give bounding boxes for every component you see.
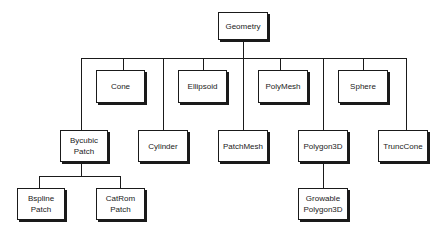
connector-catrom — [120, 176, 121, 188]
connector-bycubic-bar — [39, 176, 121, 177]
node-catrom-patch: CatRom Patch — [96, 188, 145, 220]
connector-bycubic-stem — [81, 162, 82, 176]
connector-root-stem — [243, 40, 244, 131]
connector-ellipsoid — [203, 58, 204, 70]
connector-main-bar — [81, 58, 407, 59]
node-cylinder: Cylinder — [138, 130, 188, 162]
connector-cylinder — [163, 58, 164, 130]
node-geometry: Geometry — [218, 12, 268, 40]
node-cone: Cone — [96, 70, 145, 103]
node-ellipsoid: Ellipsoid — [178, 70, 227, 103]
node-bspline-patch: Bspline Patch — [17, 188, 65, 220]
geometry-class-hierarchy-diagram: Geometry Cone Ellipsoid PolyMesh Sphere … — [0, 0, 440, 239]
connector-sphere — [363, 58, 364, 70]
node-growable-polygon3d: Growable Polygon3D — [298, 188, 348, 220]
connector-polymesh — [280, 58, 281, 70]
node-polygon3d: Polygon3D — [298, 130, 348, 162]
node-sphere: Sphere — [338, 70, 388, 103]
connector-bspline — [39, 176, 40, 188]
node-polymesh: PolyMesh — [258, 70, 308, 103]
connector-bycubic — [81, 58, 82, 130]
node-trunccone: TruncCone — [378, 130, 428, 162]
node-patchmesh: PatchMesh — [218, 130, 268, 162]
connector-cone — [123, 58, 124, 70]
connector-trunccone — [406, 58, 407, 130]
connector-growable — [323, 162, 324, 188]
connector-polygon3d — [323, 58, 324, 130]
node-bycubic-patch: Bycubic Patch — [60, 130, 108, 162]
